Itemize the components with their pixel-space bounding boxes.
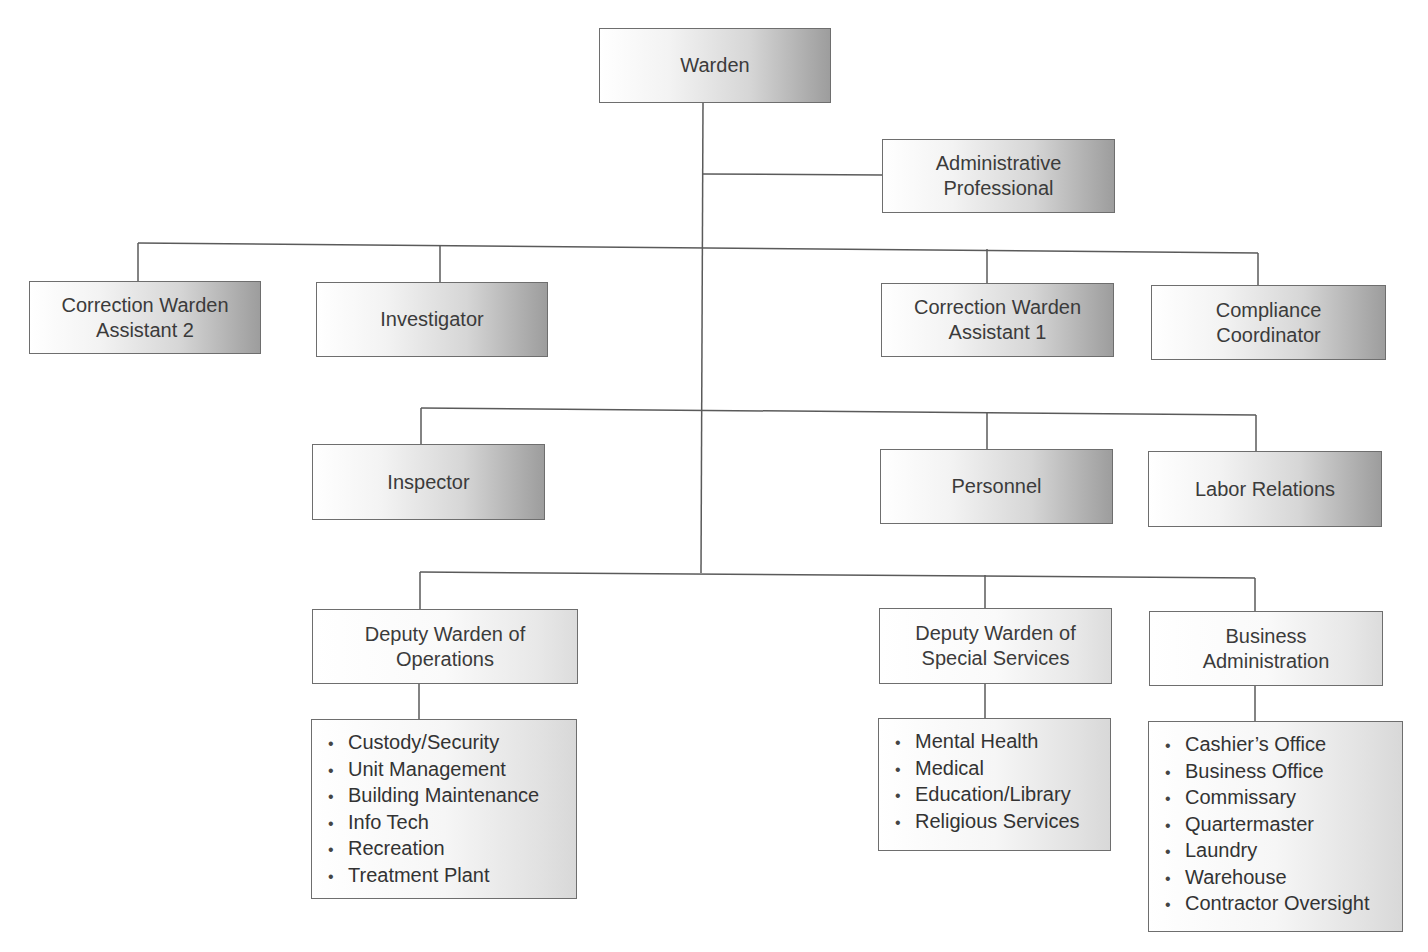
list-item: Laundry xyxy=(1165,838,1402,865)
node-personnel[interactable]: Personnel xyxy=(880,449,1113,524)
node-label: Correction Warden Assistant 1 xyxy=(914,295,1081,345)
list-business-administration-units: Cashier’s Office Business Office Commiss… xyxy=(1148,721,1403,932)
list-item: Business Office xyxy=(1165,759,1402,786)
node-label: Investigator xyxy=(380,307,483,332)
node-correction-warden-assistant-2[interactable]: Correction Warden Assistant 2 xyxy=(29,281,261,354)
node-labor-relations[interactable]: Labor Relations xyxy=(1148,451,1382,527)
node-deputy-warden-operations[interactable]: Deputy Warden of Operations xyxy=(312,609,578,684)
list-item: Unit Management xyxy=(328,757,576,784)
node-correction-warden-assistant-1[interactable]: Correction Warden Assistant 1 xyxy=(881,283,1114,357)
node-business-administration[interactable]: Business Administration xyxy=(1149,611,1383,686)
list-item: Medical xyxy=(895,756,1110,783)
node-label: Inspector xyxy=(387,470,469,495)
node-label: Administrative Professional xyxy=(936,151,1062,201)
list-item: Education/Library xyxy=(895,782,1110,809)
node-warden[interactable]: Warden xyxy=(599,28,831,103)
list-item: Cashier’s Office xyxy=(1165,732,1402,759)
node-label: Deputy Warden of Special Services xyxy=(915,621,1075,671)
list-special-services-units: Mental Health Medical Education/Library … xyxy=(878,718,1111,851)
node-label: Warden xyxy=(680,53,749,78)
org-chart: Warden Administrative Professional Corre… xyxy=(0,0,1428,952)
node-label: Deputy Warden of Operations xyxy=(365,622,525,672)
list-item: Building Maintenance xyxy=(328,783,576,810)
node-label: Compliance Coordinator xyxy=(1216,298,1322,348)
list-item: Treatment Plant xyxy=(328,863,576,890)
node-inspector[interactable]: Inspector xyxy=(312,444,545,520)
list-item: Custody/Security xyxy=(328,730,576,757)
node-investigator[interactable]: Investigator xyxy=(316,282,548,357)
node-administrative-professional[interactable]: Administrative Professional xyxy=(882,139,1115,213)
node-deputy-warden-special-services[interactable]: Deputy Warden of Special Services xyxy=(879,608,1112,684)
list-item: Commissary xyxy=(1165,785,1402,812)
list-item: Religious Services xyxy=(895,809,1110,836)
list-item: Warehouse xyxy=(1165,865,1402,892)
node-compliance-coordinator[interactable]: Compliance Coordinator xyxy=(1151,285,1386,360)
node-label: Labor Relations xyxy=(1195,477,1335,502)
list-item: Info Tech xyxy=(328,810,576,837)
list-item: Recreation xyxy=(328,836,576,863)
node-label: Personnel xyxy=(951,474,1041,499)
list-item: Contractor Oversight xyxy=(1165,891,1402,918)
list-item: Quartermaster xyxy=(1165,812,1402,839)
list-operations-units: Custody/Security Unit Management Buildin… xyxy=(311,719,577,899)
node-label: Correction Warden Assistant 2 xyxy=(61,293,228,343)
list-item: Mental Health xyxy=(895,729,1110,756)
node-label: Business Administration xyxy=(1203,624,1330,674)
